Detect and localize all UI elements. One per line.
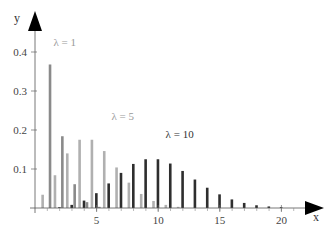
series-label: λ = 5 — [111, 110, 134, 122]
bar — [120, 173, 123, 208]
bar — [70, 205, 73, 208]
bar — [243, 203, 246, 208]
bar — [78, 140, 81, 208]
bar — [107, 183, 110, 208]
bar — [255, 205, 258, 208]
bar — [169, 164, 172, 208]
poisson-distribution-chart: λ = 1λ = 5λ = 10 x y 5101520 0.10.20.30.… — [0, 0, 329, 235]
bar — [157, 159, 160, 208]
bar — [181, 171, 184, 208]
y-tick-label: 0.2 — [13, 124, 27, 136]
bar-series-group — [41, 64, 282, 208]
y-ticks: 0.10.20.30.4 — [13, 46, 37, 175]
x-tick-label: 20 — [276, 214, 288, 226]
series-label: λ = 10 — [166, 128, 195, 140]
bar — [54, 175, 57, 208]
bar — [152, 201, 155, 208]
bar — [83, 201, 86, 208]
bar — [61, 136, 64, 208]
x-tick-label: 5 — [94, 214, 100, 226]
x-tick-label: 15 — [214, 214, 226, 226]
y-axis-arrow-icon — [28, 11, 42, 31]
x-axis-label: x — [313, 210, 319, 224]
x-ticks: 5101520 — [47, 205, 293, 226]
y-tick-label: 0.3 — [13, 85, 27, 97]
y-tick-label: 0.4 — [13, 46, 27, 58]
bar — [115, 167, 118, 208]
bar — [49, 64, 52, 208]
bar — [194, 180, 197, 208]
y-axis-label: y — [14, 11, 20, 25]
bar — [128, 183, 131, 208]
bar — [66, 153, 69, 208]
bar — [86, 202, 89, 208]
series-labels: λ = 1λ = 5λ = 10 — [54, 36, 195, 140]
bar — [231, 199, 234, 208]
bar — [140, 194, 143, 208]
y-tick-label: 0.1 — [13, 163, 27, 175]
bar — [41, 195, 44, 208]
bar — [206, 188, 209, 208]
series-label: λ = 1 — [54, 36, 77, 48]
bar — [132, 164, 135, 208]
bar — [91, 140, 94, 208]
bar — [73, 184, 76, 208]
bar — [165, 205, 168, 208]
bar — [144, 159, 147, 208]
bar — [103, 151, 106, 208]
x-tick-label: 10 — [153, 214, 165, 226]
